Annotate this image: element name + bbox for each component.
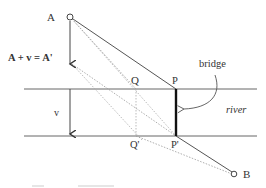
point-b-marker — [231, 171, 237, 177]
point-a-marker — [67, 14, 73, 20]
label-river: river — [226, 104, 247, 115]
dotted-line-a-to-qprime — [72, 19, 176, 136]
label-v: v — [54, 107, 59, 118]
label-p: P — [172, 75, 178, 86]
dotted-line-aprime-to-pprime — [72, 64, 176, 136]
dotted-line-a-to-q — [72, 19, 136, 89]
caption-remnant — [32, 185, 114, 187]
bridge-pointer-arrow — [184, 75, 217, 109]
label-a: A — [47, 11, 55, 23]
label-q: Q — [131, 74, 139, 86]
bridge-diagram: A A + v = A' v Q P Q' P' B bridge river — [0, 0, 266, 188]
label-pprime: P' — [171, 139, 179, 150]
label-qprime: Q' — [130, 139, 140, 150]
label-bridge: bridge — [199, 58, 226, 69]
label-b: B — [243, 168, 250, 180]
path-pprime-to-b — [176, 136, 232, 172]
label-aprime-equation: A + v = A' — [8, 52, 53, 63]
